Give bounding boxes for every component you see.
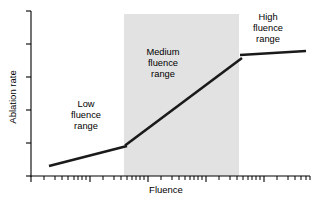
x-axis-label: Fluence (149, 184, 183, 195)
annotation-medium-line-1: Medium (146, 47, 179, 57)
annotation-low-line-3: range (74, 121, 98, 131)
annotation-high-line-2: fluence (253, 23, 283, 33)
medium-fluence-shaded-region (124, 14, 239, 176)
annotation-medium-line-2: fluence (148, 58, 178, 68)
annotation-low-line-1: Low (77, 99, 94, 109)
ablation-rate-vs-fluence-chart: Low fluence range Medium fluence range H… (0, 0, 314, 204)
annotation-high-line-3: range (256, 34, 280, 44)
annotation-medium-fluence-range: Medium fluence range (146, 47, 179, 79)
annotation-medium-line-3: range (151, 69, 175, 79)
y-axis-label: Ablation rate (7, 70, 18, 123)
annotation-low-line-2: fluence (71, 110, 101, 120)
annotation-high-line-1: High (258, 12, 277, 22)
